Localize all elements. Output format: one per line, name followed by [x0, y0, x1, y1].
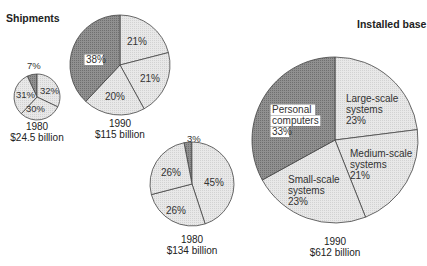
label-pct: 30%	[26, 103, 46, 114]
label-small-scale: Small-scale	[288, 174, 340, 185]
label-pct: 3%	[187, 133, 201, 144]
label-pct: 26%	[166, 205, 186, 216]
label-pct: 32%	[40, 85, 60, 96]
caption-installed-1990: 1990 $612 billion	[290, 236, 380, 258]
caption-shipments-1990: 1990 $115 billion	[75, 118, 165, 140]
label-pct: 45%	[204, 177, 224, 188]
label-personal-computers: 33%	[272, 126, 292, 137]
caption-shipments-1980: 1980 $24.5 billion	[0, 121, 82, 143]
caption-installed-1980: 1980 $134 billion	[147, 234, 237, 256]
label-pct: 20%	[105, 91, 125, 102]
label-small-scale: systems	[288, 185, 325, 196]
label-personal-computers: computers	[272, 115, 319, 126]
label-pct: 38%	[86, 54, 106, 65]
label-large-scale: 23%	[346, 115, 366, 126]
label-medium-scale: 21%	[350, 170, 370, 181]
label-pct: 21%	[140, 73, 160, 84]
label-medium-scale: systems	[350, 159, 387, 170]
label-pct: 7%	[27, 60, 41, 71]
label-large-scale: systems	[346, 104, 383, 115]
label-personal-computers: Personal	[272, 104, 311, 115]
label-small-scale: 23%	[288, 196, 308, 207]
label-pct: 21%	[127, 36, 147, 47]
label-pct: 31%	[16, 89, 36, 100]
label-pct: 26%	[161, 167, 181, 178]
label-medium-scale: Medium-scale	[350, 148, 413, 159]
label-large-scale: Large-scale	[346, 93, 399, 104]
